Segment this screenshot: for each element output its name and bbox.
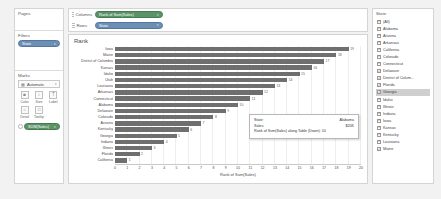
visualization-pane[interactable]: Rank IowaMaineDistrict of ColumbiaKansas… [68,34,368,184]
checkbox-icon[interactable] [377,62,381,66]
columns-pill-rank-of-sum-sales[interactable]: Rank of Sum(Sales) ▾ [95,11,163,18]
checkbox-icon[interactable] [377,133,381,137]
checkbox-icon[interactable] [377,48,381,52]
state-filter-item-label: Maine [383,147,393,151]
mark-type-dropdown[interactable]: ▦ Automatic ▾ [18,80,60,88]
checkbox-icon[interactable] [377,112,381,116]
state-filter-item[interactable]: District of Colum... [376,75,430,82]
state-filter-item[interactable]: Delaware [376,68,430,75]
bar-value-label: 5 [178,134,180,138]
state-filter-list[interactable]: (All)AlabamaArizonaArkansasCaliforniaCol… [376,18,430,181]
checkbox-icon[interactable] [377,76,381,80]
bar-value-label: 13 [276,84,280,88]
checkbox-icon[interactable] [377,83,381,87]
tooltip-sales-value: $20K [345,124,354,130]
checkbox-icon[interactable] [377,55,381,59]
state-filter-item[interactable]: Florida [376,82,430,89]
state-filter-item-label: Alabama [383,27,398,31]
bar-series[interactable]: 19181716151413121110987654321 [115,46,361,164]
x-axis-tick: 8 [212,166,214,170]
bar-chart[interactable]: IowaMaineDistrict of ColumbiaKansasIdaho… [69,46,367,164]
shelves-area: Columns Rank of Sum(Sales) ▾ Rows State … [68,8,368,32]
rows-shelf[interactable]: Rows State ▾ [72,21,364,30]
state-filter-item[interactable]: Iowa [376,117,430,124]
checkbox-icon[interactable] [377,147,381,151]
pages-shelf[interactable]: Pages [15,9,63,31]
bar[interactable] [115,115,213,119]
bar-value-label: 15 [301,72,305,76]
state-filter-item[interactable]: Illinois [376,103,430,110]
state-filter-item[interactable]: Colorado [376,53,430,60]
checkbox-icon[interactable] [377,119,381,123]
grip-icon [72,23,75,28]
state-filter-item[interactable]: California [376,46,430,53]
chevron-down-icon[interactable]: ▾ [55,82,57,86]
bar-value-label: 9 [227,109,229,113]
chevron-down-icon[interactable]: ▾ [54,42,56,46]
bar[interactable] [115,53,336,57]
checkbox-icon[interactable] [377,41,381,45]
bar-value-label: 18 [338,53,342,57]
state-filter-item[interactable]: Kentucky [376,132,430,139]
chevron-down-icon[interactable]: ▾ [157,23,159,27]
bar[interactable] [115,47,349,51]
bar[interactable] [115,152,140,156]
rows-pill-state[interactable]: State ▾ [95,22,163,29]
state-filter-item[interactable]: Maine [376,146,430,153]
bar[interactable] [115,96,250,100]
bar-value-label: 16 [313,66,317,70]
bar[interactable] [115,65,312,69]
bar[interactable] [115,127,189,131]
bar[interactable] [115,84,275,88]
state-filter-item[interactable]: Georgia [376,89,430,96]
filters-shelf[interactable]: Filters State ▾ [15,31,63,71]
y-axis-labels: IowaMaineDistrict of ColumbiaKansasIdaho… [69,46,115,164]
marks-card: Marks ▦ Automatic ▾ ■ Color ↕ Size T Lab… [15,71,63,183]
bar[interactable] [115,109,226,113]
x-axis-tick: 15 [298,166,302,170]
checkbox-icon[interactable] [377,20,381,24]
checkbox-icon[interactable] [377,98,381,102]
marks-detail-button[interactable]: ○ Detail [18,106,31,119]
checkbox-icon[interactable] [377,126,381,130]
bar[interactable] [115,140,164,144]
state-filter-panel[interactable]: State (All)AlabamaArizonaArkansasCalifor… [372,8,434,184]
state-filter-item[interactable]: Kansas [376,124,430,131]
checkbox-icon[interactable] [377,140,381,144]
state-filter-item[interactable]: Louisiana [376,139,430,146]
state-filter-item[interactable]: (All) [376,18,430,25]
bar[interactable] [115,103,238,107]
pages-dropzone[interactable] [18,18,60,28]
checkbox-icon[interactable] [377,27,381,31]
marks-color-button[interactable]: ■ Color [18,91,31,104]
marks-size-button[interactable]: ↕ Size [32,91,45,104]
filter-pill-state[interactable]: State ▾ [18,40,60,47]
bar[interactable] [115,158,127,162]
bar[interactable] [115,59,324,63]
x-axis-tick: 4 [163,166,165,170]
chevron-down-icon[interactable]: ▾ [157,13,159,17]
checkbox-icon[interactable] [377,34,381,38]
bar[interactable] [115,78,287,82]
state-filter-item[interactable]: Idaho [376,96,430,103]
bar[interactable] [115,146,152,150]
chevron-down-icon[interactable]: ▾ [54,125,56,129]
marks-label-button[interactable]: T Label [47,91,60,104]
bar[interactable] [115,90,263,94]
state-filter-item[interactable]: Indiana [376,110,430,117]
x-axis-tick: 18 [334,166,338,170]
state-filter-item[interactable]: Arkansas [376,39,430,46]
marks-tooltip-button[interactable]: □ Tooltip [32,106,45,119]
marks-pill-sum-sales[interactable]: SUM(Sales) ▾ [24,123,60,130]
checkbox-icon[interactable] [377,69,381,73]
state-filter-item[interactable]: Arizona [376,32,430,39]
state-filter-item[interactable]: Alabama [376,25,430,32]
columns-shelf[interactable]: Columns Rank of Sum(Sales) ▾ [72,11,364,20]
checkbox-icon[interactable] [377,105,381,109]
bar[interactable] [115,72,300,76]
rows-pill-label: State [99,23,108,28]
state-filter-item[interactable]: Connecticut [376,61,430,68]
bar[interactable] [115,134,177,138]
checkbox-icon[interactable] [377,90,381,94]
bar[interactable] [115,121,201,125]
